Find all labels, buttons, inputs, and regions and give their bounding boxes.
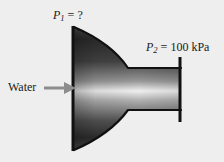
inlet-pressure-relation: = bbox=[68, 8, 75, 22]
inlet-pressure-label: P1 = ? bbox=[53, 9, 83, 23]
outlet-pressure-label: P2 = 100 kPa bbox=[146, 41, 209, 55]
inlet-pressure-subscript: 1 bbox=[60, 13, 64, 23]
fluid-label: Water bbox=[8, 81, 36, 93]
nozzle-figure: P1 = ? P2 = 100 kPa Water bbox=[0, 0, 224, 162]
inlet-pressure-value: ? bbox=[77, 8, 82, 22]
outlet-pressure-subscript: 2 bbox=[153, 45, 157, 55]
right-arrow-icon bbox=[44, 82, 76, 94]
outlet-pressure-value: 100 kPa bbox=[170, 40, 209, 54]
outlet-pressure-relation: = bbox=[161, 40, 168, 54]
